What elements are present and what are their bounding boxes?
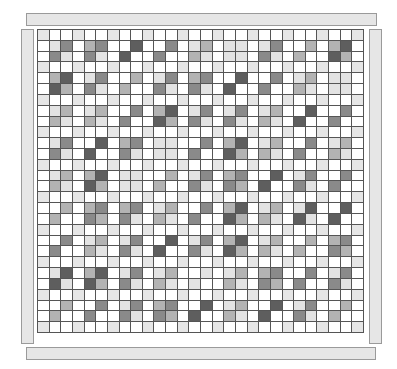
- tile-cell[interactable]: [120, 106, 132, 117]
- tile-cell[interactable]: [271, 138, 283, 149]
- tile-cell[interactable]: [120, 279, 132, 290]
- tile-cell[interactable]: [271, 84, 283, 95]
- tile-cell[interactable]: [329, 203, 341, 214]
- tile-cell[interactable]: [85, 301, 97, 312]
- tile-cell[interactable]: [236, 301, 248, 312]
- tile-cell[interactable]: [271, 171, 283, 182]
- tile-cell[interactable]: [154, 279, 166, 290]
- tile-cell[interactable]: [189, 52, 201, 63]
- tile-cell[interactable]: [96, 279, 108, 290]
- tile-cell[interactable]: [236, 117, 248, 128]
- tile-cell[interactable]: [259, 311, 271, 322]
- tile-cell[interactable]: [294, 84, 306, 95]
- tile-cell[interactable]: [166, 149, 178, 160]
- tile-cell[interactable]: [131, 311, 143, 322]
- tile-cell[interactable]: [131, 138, 143, 149]
- tile-cell[interactable]: [294, 41, 306, 52]
- tile-cell[interactable]: [131, 106, 143, 117]
- tile-cell[interactable]: [96, 41, 108, 52]
- tile-cell[interactable]: [85, 41, 97, 52]
- tile-cell[interactable]: [61, 246, 73, 257]
- tile-cell[interactable]: [201, 106, 213, 117]
- tile-cell[interactable]: [189, 214, 201, 225]
- tile-cell[interactable]: [341, 301, 353, 312]
- tile-cell[interactable]: [306, 52, 318, 63]
- tile-cell[interactable]: [61, 84, 73, 95]
- tile-cell[interactable]: [131, 246, 143, 257]
- tile-cell[interactable]: [131, 279, 143, 290]
- tile-cell[interactable]: [271, 214, 283, 225]
- tile-cell[interactable]: [166, 181, 178, 192]
- tile-cell[interactable]: [306, 301, 318, 312]
- tile-cell[interactable]: [189, 268, 201, 279]
- tile-cell[interactable]: [50, 236, 62, 247]
- tile-cell[interactable]: [224, 246, 236, 257]
- tile-cell[interactable]: [61, 117, 73, 128]
- tile-cell[interactable]: [224, 171, 236, 182]
- tile-cell[interactable]: [341, 149, 353, 160]
- tile-cell[interactable]: [50, 171, 62, 182]
- tile-cell[interactable]: [189, 73, 201, 84]
- tile-cell[interactable]: [61, 279, 73, 290]
- tile-cell[interactable]: [294, 171, 306, 182]
- tile-cell[interactable]: [166, 214, 178, 225]
- tile-cell[interactable]: [50, 181, 62, 192]
- tile-cell[interactable]: [341, 279, 353, 290]
- tile-cell[interactable]: [306, 268, 318, 279]
- tile-cell[interactable]: [189, 236, 201, 247]
- tile-cell[interactable]: [224, 181, 236, 192]
- tile-cell[interactable]: [201, 52, 213, 63]
- tile-cell[interactable]: [131, 117, 143, 128]
- tile-cell[interactable]: [224, 214, 236, 225]
- tile-cell[interactable]: [224, 268, 236, 279]
- tile-cell[interactable]: [341, 203, 353, 214]
- tile-cell[interactable]: [154, 268, 166, 279]
- tile-cell[interactable]: [154, 41, 166, 52]
- tile-cell[interactable]: [329, 149, 341, 160]
- tile-cell[interactable]: [329, 52, 341, 63]
- tile-cell[interactable]: [294, 214, 306, 225]
- tile-cell[interactable]: [236, 73, 248, 84]
- tile-cell[interactable]: [120, 171, 132, 182]
- tile-cell[interactable]: [50, 301, 62, 312]
- tile-cell[interactable]: [96, 84, 108, 95]
- tile-cell[interactable]: [306, 41, 318, 52]
- tile-cell[interactable]: [85, 214, 97, 225]
- tile-cell[interactable]: [154, 149, 166, 160]
- tile-cell[interactable]: [306, 203, 318, 214]
- tile-cell[interactable]: [50, 117, 62, 128]
- tile-cell[interactable]: [96, 117, 108, 128]
- tile-cell[interactable]: [224, 236, 236, 247]
- tile-cell[interactable]: [120, 41, 132, 52]
- tile-cell[interactable]: [131, 268, 143, 279]
- tile-cell[interactable]: [166, 268, 178, 279]
- tile-cell[interactable]: [236, 84, 248, 95]
- tile-cell[interactable]: [85, 311, 97, 322]
- tile-cell[interactable]: [224, 117, 236, 128]
- tile-cell[interactable]: [189, 246, 201, 257]
- tile-cell[interactable]: [154, 236, 166, 247]
- tile-cell[interactable]: [166, 138, 178, 149]
- tile-cell[interactable]: [341, 52, 353, 63]
- tile-cell[interactable]: [271, 311, 283, 322]
- tile-cell[interactable]: [50, 106, 62, 117]
- tile-cell[interactable]: [329, 279, 341, 290]
- tile-cell[interactable]: [294, 236, 306, 247]
- tile-cell[interactable]: [271, 236, 283, 247]
- tile-cell[interactable]: [201, 268, 213, 279]
- tile-cell[interactable]: [201, 73, 213, 84]
- tile-cell[interactable]: [131, 214, 143, 225]
- tile-cell[interactable]: [131, 73, 143, 84]
- tile-cell[interactable]: [236, 149, 248, 160]
- tile-cell[interactable]: [50, 279, 62, 290]
- tile-cell[interactable]: [329, 171, 341, 182]
- tile-cell[interactable]: [259, 84, 271, 95]
- tile-cell[interactable]: [259, 52, 271, 63]
- tile-cell[interactable]: [329, 181, 341, 192]
- tile-cell[interactable]: [189, 84, 201, 95]
- tile-cell[interactable]: [131, 301, 143, 312]
- tile-cell[interactable]: [294, 181, 306, 192]
- tile-cell[interactable]: [166, 171, 178, 182]
- tile-cell[interactable]: [329, 73, 341, 84]
- tile-cell[interactable]: [201, 214, 213, 225]
